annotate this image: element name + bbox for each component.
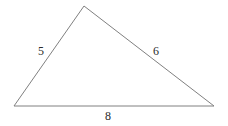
side-label-base: 8: [105, 110, 111, 122]
triangle-shape: [0, 0, 228, 126]
side-label-right: 6: [153, 45, 159, 57]
side-label-left: 5: [38, 45, 44, 57]
triangle-outline: [14, 6, 214, 106]
triangle-figure: 5 6 8: [0, 0, 228, 126]
